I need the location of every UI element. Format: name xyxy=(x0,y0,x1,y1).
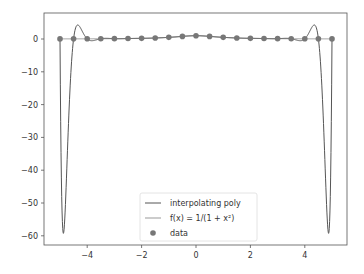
y-tick-label: −60 xyxy=(21,232,38,241)
data-point xyxy=(316,36,322,42)
legend-marker-data-icon xyxy=(150,230,156,236)
data-point xyxy=(302,36,308,42)
x-tick-label: 2 xyxy=(248,251,253,260)
data-point xyxy=(125,36,131,42)
chart: 0−10−20−30−40−50−60 −4−2024 interpolatin… xyxy=(0,0,364,274)
data-point xyxy=(57,36,63,42)
data-point xyxy=(220,35,226,41)
y-axis: 0−10−20−30−40−50−60 xyxy=(21,35,44,241)
y-tick-label: −50 xyxy=(21,199,38,208)
data-point xyxy=(234,35,240,41)
legend-label-data: data xyxy=(170,229,188,238)
data-point xyxy=(180,34,186,40)
x-axis: −4−2024 xyxy=(81,245,307,260)
data-point xyxy=(166,35,172,41)
y-tick-label: −20 xyxy=(21,101,38,110)
y-tick-label: 0 xyxy=(33,35,38,44)
data-point xyxy=(139,36,145,42)
legend: interpolating poly f(x) = 1/(1 + x²) dat… xyxy=(140,193,257,241)
x-tick-label: 4 xyxy=(302,251,307,260)
data-point xyxy=(193,33,199,39)
data-point xyxy=(261,36,267,42)
data-point xyxy=(329,36,335,42)
data-point xyxy=(275,36,281,42)
legend-label-poly: interpolating poly xyxy=(170,199,241,208)
data-point xyxy=(207,34,213,40)
data-point xyxy=(152,35,158,41)
data-point xyxy=(288,36,294,42)
y-tick-label: −10 xyxy=(21,68,38,77)
legend-label-function: f(x) = 1/(1 + x²) xyxy=(170,214,234,223)
y-tick-label: −30 xyxy=(21,133,38,142)
x-tick-label: −2 xyxy=(136,251,148,260)
data-point xyxy=(98,36,104,42)
y-tick-label: −40 xyxy=(21,166,38,175)
x-tick-label: −4 xyxy=(81,251,93,260)
data-point xyxy=(71,36,77,42)
x-tick-label: 0 xyxy=(193,251,198,260)
data-point xyxy=(248,36,254,42)
data-point xyxy=(84,36,90,42)
data-point xyxy=(112,36,118,42)
